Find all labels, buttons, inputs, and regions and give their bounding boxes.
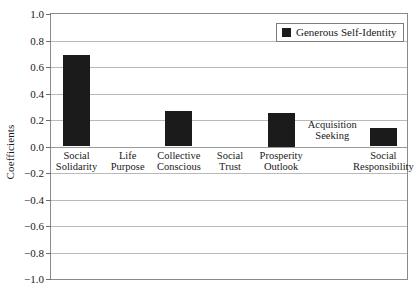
- y-tick-label: 1.0: [30, 8, 44, 20]
- y-tick-mark: [46, 173, 51, 174]
- y-tick-label: 0.2: [30, 114, 44, 126]
- gridline: [51, 226, 407, 227]
- bar: [165, 111, 192, 147]
- y-tick-mark: [46, 147, 51, 148]
- y-tick-label: 0.0: [30, 141, 44, 153]
- y-axis-title-text: Coefficients: [4, 125, 16, 180]
- y-tick-mark: [46, 200, 51, 201]
- y-tick-label: −0.2: [24, 167, 44, 179]
- y-tick-label: −0.8: [24, 247, 44, 259]
- y-tick-label: −0.4: [24, 194, 44, 206]
- bar: [63, 55, 90, 146]
- bar: [370, 128, 397, 147]
- y-tick-mark: [46, 226, 51, 227]
- y-tick-mark: [46, 94, 51, 95]
- y-tick-label: 0.4: [30, 88, 44, 100]
- gridline: [51, 94, 407, 95]
- y-tick-label: 0.6: [30, 61, 44, 73]
- y-tick-label: −1.0: [24, 273, 44, 285]
- category-label: AcquisitionSeeking: [299, 119, 366, 142]
- gridline: [51, 253, 407, 254]
- y-tick-mark: [46, 41, 51, 42]
- legend-swatch-generous-self-identity: [282, 28, 291, 37]
- y-tick-mark: [46, 253, 51, 254]
- legend: Generous Self-Identity: [276, 23, 404, 42]
- gridline: [51, 67, 407, 68]
- gridline: [51, 200, 407, 201]
- bar: [268, 113, 295, 146]
- y-tick-mark: [46, 279, 51, 280]
- category-label: SocialResponsibility: [350, 150, 417, 173]
- y-axis-title: Coefficients: [0, 0, 20, 304]
- y-tick-mark: [46, 120, 51, 121]
- y-tick-label: −0.6: [24, 220, 44, 232]
- y-tick-mark: [46, 14, 51, 15]
- y-tick-label: 0.8: [30, 35, 44, 47]
- gridline: [51, 147, 407, 148]
- plot-area: 1.00.80.60.40.20.0−0.2−0.4−0.6−0.8−1.0 S…: [50, 13, 408, 280]
- y-tick-mark: [46, 67, 51, 68]
- category-label: ProsperityOutlook: [248, 150, 315, 173]
- gridline: [51, 173, 407, 174]
- bar-chart: Coefficients 1.00.80.60.40.20.0−0.2−0.4−…: [0, 0, 420, 304]
- legend-label-generous-self-identity: Generous Self-Identity: [296, 26, 397, 38]
